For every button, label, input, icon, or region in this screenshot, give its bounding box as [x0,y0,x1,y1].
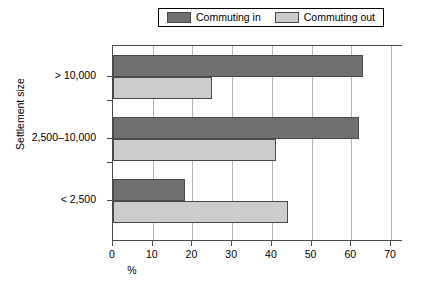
legend-entry-commuting-out: Commuting out [275,12,375,23]
x-axis-tick-label: 20 [176,248,206,260]
x-axis-tick-label: 40 [256,248,286,260]
legend-label-commuting-in: Commuting in [196,12,261,23]
x-axis-tick [112,241,113,246]
legend-entry-commuting-in: Commuting in [167,12,261,23]
x-axis-tick [152,241,153,246]
x-axis-label: % [0,264,444,276]
y-axis-tick [107,76,112,77]
x-axis-tick [311,241,312,246]
bar-group [113,117,402,161]
y-axis-tick [107,138,112,139]
x-axis-tick [191,241,192,246]
x-axis-tick-label: 10 [137,248,167,260]
x-axis-tick [231,241,232,246]
x-axis-tick [390,241,391,246]
x-axis-tick [271,241,272,246]
y-axis-tick-label: > 10,000 [55,69,96,81]
y-axis-label: Settlement size [14,24,26,204]
y-axis-minor-tick [107,162,112,163]
x-axis-tick-label: 0 [97,248,127,260]
legend-label-commuting-out: Commuting out [304,12,375,23]
x-axis-label-text: % [127,264,136,276]
bar-group [113,179,402,223]
bar-commuting-out [113,77,212,99]
bar-commuting-out [113,139,276,161]
x-axis-tick-label: 60 [335,248,365,260]
y-axis-tick-label: 2,500–10,000 [32,131,96,143]
y-axis-tick [107,200,112,201]
x-axis-tick [350,241,351,246]
bar-commuting-out [113,201,288,223]
bar-commuting-in [113,117,359,139]
x-axis-tick-label: 70 [375,248,405,260]
bar-commuting-in [113,179,185,201]
chart-legend: Commuting in Commuting out [158,8,384,27]
legend-swatch-commuting-out [275,12,299,23]
plot-area [112,45,402,241]
y-axis-minor-tick [107,100,112,101]
x-axis-tick-label: 30 [216,248,246,260]
bar-group [113,55,402,99]
legend-swatch-commuting-in [167,12,191,23]
y-axis-tick-label: < 2,500 [61,193,96,205]
bar-commuting-in [113,55,363,77]
x-axis-tick-label: 50 [296,248,326,260]
